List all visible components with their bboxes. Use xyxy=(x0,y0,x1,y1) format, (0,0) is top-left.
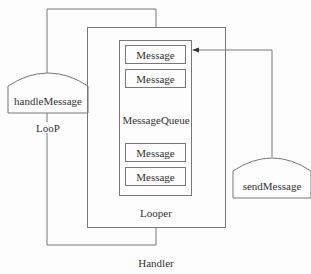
send-message-shape xyxy=(233,158,311,198)
handle-message-shape xyxy=(8,73,88,113)
loop-label: LooP xyxy=(36,122,60,134)
handle-message-label: handleMessage xyxy=(14,95,82,107)
send-message-label: sendMessage xyxy=(243,180,302,192)
message-queue-label: MessageQueue xyxy=(122,114,189,126)
message-item: Message xyxy=(125,69,186,88)
message-item: Message xyxy=(125,167,186,186)
handler-label: Handler xyxy=(138,257,173,269)
looper-label: Looper xyxy=(140,207,172,219)
message-item: Message xyxy=(125,45,186,64)
message-item: Message xyxy=(125,143,186,162)
